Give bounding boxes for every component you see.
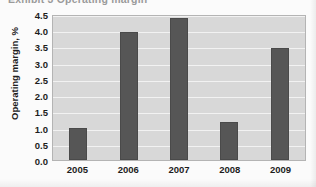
bar-2009 bbox=[271, 48, 289, 160]
chart-title: Exhibit 3 Operating margin bbox=[8, 0, 308, 7]
scan-edge-shadow-right bbox=[310, 0, 316, 187]
bar-cell bbox=[154, 16, 204, 160]
x-tick-label: 2007 bbox=[154, 164, 205, 175]
y-tick-label: 3.0 bbox=[35, 58, 48, 69]
bar-cell bbox=[204, 16, 254, 160]
bar-2006 bbox=[120, 32, 138, 160]
y-tick-label: 0.0 bbox=[35, 156, 48, 167]
y-tick-label: 1.5 bbox=[35, 107, 48, 118]
x-axis-tick-labels: 20052006200720082009 bbox=[52, 164, 306, 175]
y-tick-label: 4.5 bbox=[35, 10, 48, 21]
bar-cell bbox=[255, 16, 305, 160]
bar-series bbox=[53, 16, 305, 160]
bar-2007 bbox=[170, 18, 188, 160]
y-tick-label: 0.5 bbox=[35, 139, 48, 150]
bar-2005 bbox=[69, 128, 87, 160]
y-tick-label: 4.0 bbox=[35, 26, 48, 37]
bar-cell bbox=[53, 16, 103, 160]
bar-2008 bbox=[220, 122, 238, 160]
x-tick-label: 2006 bbox=[103, 164, 154, 175]
y-axis-tick-labels: 0.00.51.01.52.02.53.03.54.04.5 bbox=[16, 11, 48, 161]
scan-edge-shadow-bottom bbox=[0, 179, 316, 187]
x-tick-label: 2005 bbox=[52, 164, 103, 175]
plot-area bbox=[52, 15, 306, 161]
y-tick-label: 2.0 bbox=[35, 91, 48, 102]
y-tick-label: 1.0 bbox=[35, 123, 48, 134]
x-tick-label: 2008 bbox=[204, 164, 255, 175]
x-tick-label: 2009 bbox=[255, 164, 306, 175]
y-tick-label: 2.5 bbox=[35, 74, 48, 85]
y-tick-label: 3.5 bbox=[35, 42, 48, 53]
chart-figure: Exhibit 3 Operating margin Operating mar… bbox=[0, 0, 316, 187]
bar-cell bbox=[103, 16, 153, 160]
